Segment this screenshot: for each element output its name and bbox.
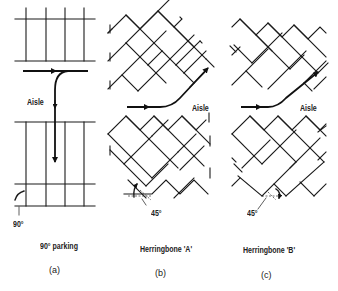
- aisle-arrow: [23, 71, 88, 162]
- panel-c-letter: (c): [261, 270, 272, 280]
- panel-c-angle-label: 45°: [247, 208, 258, 218]
- panel-a-aisle-label: Aisle: [27, 97, 44, 107]
- panel-b-letter: (b): [155, 268, 166, 278]
- top-stall-block: [230, 19, 328, 91]
- bottom-stall-block: [232, 116, 326, 196]
- panel-a-angle-label: 90°: [13, 219, 24, 229]
- angle-indicator-90: [15, 191, 24, 215]
- panel-b-angle-label: 45°: [151, 208, 162, 218]
- panel-b-aisle-arrow: [127, 68, 208, 107]
- bottom-stall-block: [108, 113, 210, 198]
- panel-c-title: Herringbone 'B': [243, 245, 295, 255]
- panel-a-title: 90° parking: [40, 241, 78, 251]
- panel-b-title: Herringbone 'A': [140, 244, 192, 254]
- panel-a-letter: (a): [49, 265, 60, 275]
- panel-c-aisle-label: Aisle: [300, 103, 317, 113]
- panel-b-herringbone-a: [108, 0, 214, 198]
- panel-c-angle-indicator-45: [258, 189, 280, 209]
- panel-b-aisle-label: Aisle: [192, 103, 209, 113]
- panel-a-90-degree-parking: [15, 8, 95, 215]
- top-stall-block: [15, 8, 95, 61]
